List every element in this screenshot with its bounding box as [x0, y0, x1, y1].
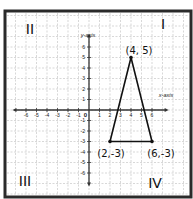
svg-text:3: 3	[82, 75, 85, 81]
svg-text:-2: -2	[81, 128, 86, 134]
svg-text:6: 6	[82, 44, 85, 50]
svg-text:-6: -6	[81, 170, 86, 176]
svg-text:-5: -5	[81, 159, 86, 165]
svg-text:-6: -6	[24, 112, 29, 118]
svg-text:-5: -5	[34, 112, 39, 118]
svg-text:-1: -1	[81, 117, 86, 123]
svg-text:5: 5	[82, 54, 85, 60]
figure-border	[5, 11, 191, 197]
svg-text:-4: -4	[81, 149, 86, 155]
svg-text:-3: -3	[81, 138, 86, 144]
coordinate-plane-figure: -6-5-4-3-2-1123456654321-1-2-3-4-5-6 y-a…	[0, 0, 193, 199]
quadrant-II-label: II	[26, 21, 34, 37]
svg-text:3: 3	[119, 112, 122, 118]
quadrant-I-label: I	[161, 16, 165, 32]
svg-text:1: 1	[82, 96, 85, 102]
y-axis-label: y-axis	[80, 32, 96, 38]
point-label-2-neg3: (2,-3)	[97, 148, 124, 159]
x-axis-label: x-axis	[158, 92, 174, 98]
svg-text:2: 2	[109, 112, 112, 118]
svg-text:-3: -3	[55, 112, 60, 118]
quadrant-III-label: III	[19, 173, 31, 189]
svg-text:-4: -4	[45, 112, 50, 118]
svg-text:4: 4	[130, 112, 133, 118]
svg-text:2: 2	[82, 86, 85, 92]
svg-text:4: 4	[82, 65, 85, 71]
quadrant-IV-label: IV	[148, 175, 162, 191]
svg-text:6: 6	[151, 112, 154, 118]
point-label-6-neg3: (6,-3)	[147, 148, 174, 159]
point-label-4-5: (4, 5)	[126, 45, 153, 56]
svg-text:5: 5	[140, 112, 143, 118]
svg-text:1: 1	[98, 112, 101, 118]
svg-text:-2: -2	[66, 112, 71, 118]
